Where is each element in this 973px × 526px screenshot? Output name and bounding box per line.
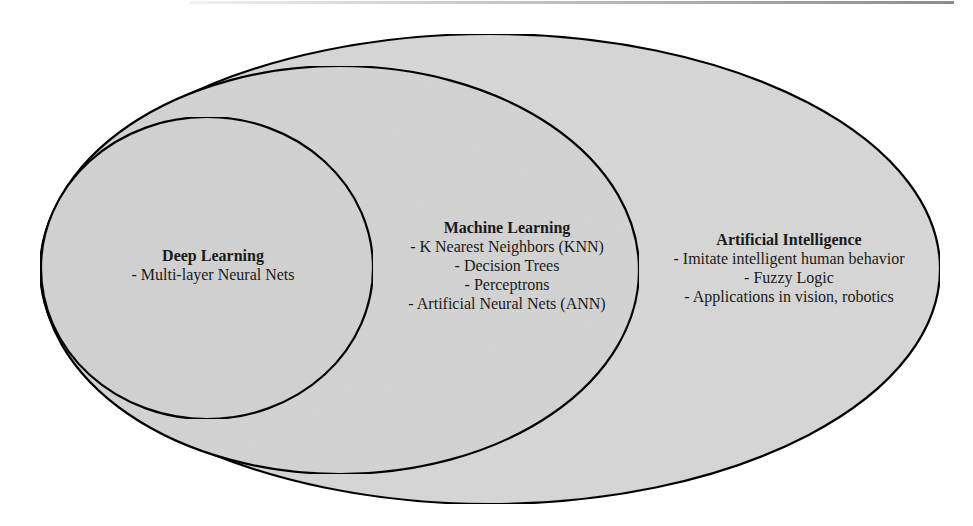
set-item: - Perceptrons <box>408 275 605 294</box>
set-item: - Decision Trees <box>408 256 605 275</box>
label-machine-learning: Machine Learning - K Nearest Neighbors (… <box>408 218 605 313</box>
set-item: - Fuzzy Logic <box>673 268 904 287</box>
set-title: Machine Learning <box>408 218 605 237</box>
set-item: - K Nearest Neighbors (KNN) <box>408 237 605 256</box>
set-item: - Multi-layer Neural Nets <box>131 265 294 284</box>
set-item: - Imitate intelligent human behavior <box>673 249 904 268</box>
set-title: Deep Learning <box>131 246 294 265</box>
label-artificial-intelligence: Artificial Intelligence - Imitate intell… <box>673 230 904 306</box>
set-item: - Applications in vision, robotics <box>673 287 904 306</box>
label-deep-learning: Deep Learning - Multi-layer Neural Nets <box>131 246 294 284</box>
set-item: - Artificial Neural Nets (ANN) <box>408 294 605 313</box>
set-title: Artificial Intelligence <box>673 230 904 249</box>
